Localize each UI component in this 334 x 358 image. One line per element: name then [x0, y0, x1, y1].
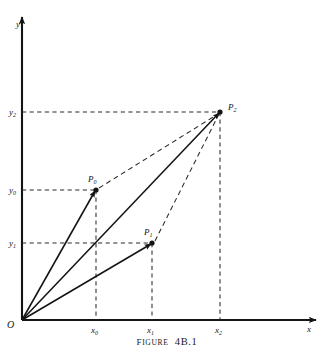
origin-label: O: [7, 319, 14, 330]
y-tick-label-y2: y2: [8, 107, 16, 118]
construction-line-group: [99, 114, 219, 241]
vector-o-p2: [22, 113, 219, 320]
vector-group: [22, 113, 219, 320]
figure-container: P0 P1 P2 x0 x1 x2 y2: [0, 0, 334, 358]
point-marker-p0: [93, 187, 98, 192]
point-marker-p2: [217, 109, 222, 114]
x-tick-label-x2: x2: [214, 325, 222, 336]
x-tick-label-x0: x0: [90, 325, 98, 336]
coordinate-plot: P0 P1 P2 x0 x1 x2 y2: [0, 0, 334, 340]
vector-o-p1: [22, 244, 151, 320]
point-label-p0: P0: [87, 174, 97, 185]
x-axis-label: x: [306, 324, 311, 334]
y-tick-label-group: y2 y0 y1: [8, 107, 16, 249]
figure-caption-number: 4B.1: [175, 336, 198, 347]
y-tick-label-y1: y1: [8, 238, 16, 249]
x-tick-label-group: x0 x1 x2: [90, 325, 222, 336]
point-label-group: P0 P1 P2: [87, 102, 237, 238]
point-label-p1: P1: [143, 227, 153, 238]
x-tick-label-x1: x1: [146, 325, 154, 336]
y-axis-label: y: [15, 19, 20, 29]
point-marker-p1: [149, 240, 154, 245]
figure-caption: FIGURE 4B.1: [0, 336, 334, 347]
point-label-p2: P2: [227, 102, 237, 113]
y-tick-label-y0: y0: [8, 185, 16, 196]
figure-caption-prefix-rest: IGURE: [142, 338, 168, 347]
